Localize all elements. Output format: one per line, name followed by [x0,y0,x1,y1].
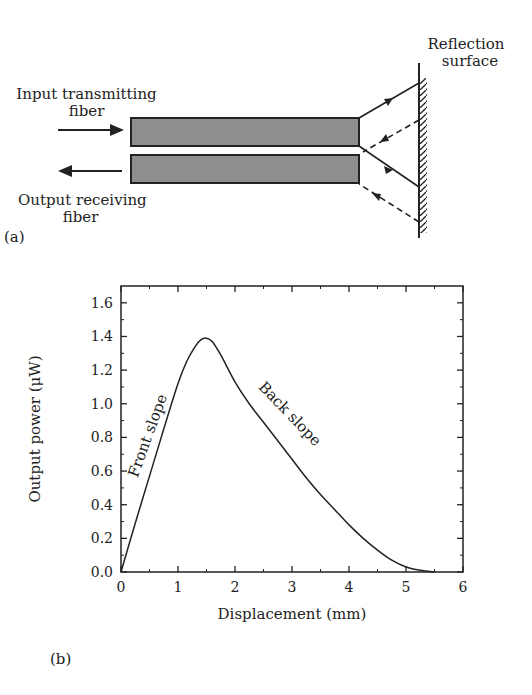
x-tick-label: 3 [288,579,297,595]
ray-arrow-icon [380,134,389,142]
curve-annotation: Back slope [255,378,325,450]
input-fiber-label: Input transmitting fiber [14,86,159,120]
output-fiber [131,155,359,183]
y-tick-label: 1.0 [91,396,113,412]
panel-label-a: (a) [4,228,25,246]
panel-label-b: (b) [50,650,71,668]
y-tick-label: 1.6 [91,295,113,311]
x-tick-label: 4 [345,579,354,595]
reflection-surface-label: Reflection surface [426,36,506,70]
input-fiber [131,118,359,146]
input-label-line2: fiber [14,103,159,120]
output-fiber-label: Output receiving fiber [18,192,143,226]
y-tick-label: 0.2 [91,530,113,546]
x-tick-label: 2 [231,579,240,595]
surface-label-line2: surface [426,53,506,70]
output-label-line1: Output receiving [18,192,143,209]
y-tick-label: 0.0 [91,564,113,580]
diagram-panel: Input transmitting fiber Output receivin… [0,0,532,250]
output-power-curve [121,338,435,572]
x-tick-label: 5 [402,579,411,595]
ray-arrow-icon [372,193,381,201]
y-axis-label: Output power (μW) [26,355,44,502]
plot-frame [121,286,463,572]
output-label-line2: fiber [18,209,143,226]
output-arrow-icon [58,165,122,177]
y-tick-label: 1.2 [91,362,113,378]
y-tick-label: 0.6 [91,463,113,479]
input-arrow-icon [58,124,124,136]
y-tick-label: 0.4 [91,497,113,513]
x-tick-label: 1 [174,579,183,595]
curve-annotation: Front slope [124,392,171,480]
y-tick-label: 1.4 [91,328,113,344]
x-tick-label: 0 [117,579,126,595]
x-tick-label: 6 [459,579,468,595]
x-axis-label: Displacement (mm) [218,605,367,623]
output-power-chart: 01234560.00.20.40.60.81.01.21.41.6Displa… [0,250,532,695]
surface-label-line1: Reflection [426,36,506,53]
y-tick-label: 0.8 [91,429,113,445]
ray-paths [359,83,419,222]
ray-arrow-icon [384,166,393,174]
input-label-line1: Input transmitting [14,86,159,103]
reflection-surface [419,63,427,238]
